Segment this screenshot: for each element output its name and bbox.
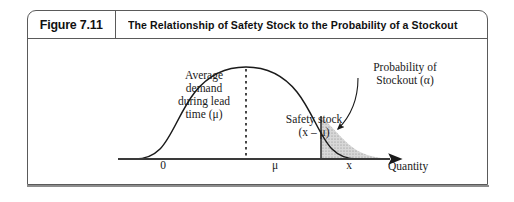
annotation-probability-of-stockout: Probability of Stockout (α) (346, 61, 464, 87)
figure-number-cell: Figure 7.11 (28, 11, 116, 38)
xtick-x: x (340, 159, 358, 171)
x-axis-label: Quantity (388, 160, 472, 172)
figure-title: The Relationship of Safety Stock to the … (128, 19, 458, 31)
figure-title-cell: The Relationship of Safety Stock to the … (116, 11, 487, 38)
xtick-mu: μ (266, 159, 284, 171)
chart-plot-area: Average demand during lead time (μ) Safe… (28, 39, 487, 185)
figure-number-label: Figure 7.11 (40, 17, 103, 32)
annotation-safety-stock: Safety stock (x – μ) (277, 113, 351, 139)
annotation-average-demand: Average demand during lead time (μ) (156, 69, 252, 121)
card-bottom-edge (27, 185, 489, 187)
figure-card: Figure 7.11 The Relationship of Safety S… (27, 10, 488, 185)
xtick-zero: 0 (154, 159, 172, 171)
figure-header: Figure 7.11 The Relationship of Safety S… (28, 11, 487, 39)
